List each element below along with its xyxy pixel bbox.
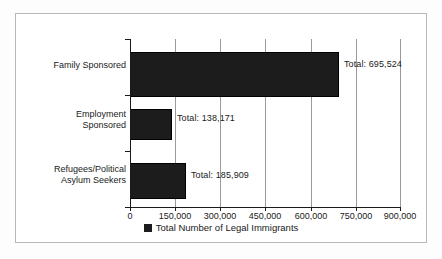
y-axis-tick-1 [125,95,130,96]
category-label-employment-sponsored: Employment Sponsored [18,109,126,131]
x-tick-label-150000: 150,000 [159,211,192,221]
category-label-family-sponsored: Family Sponsored [18,60,126,71]
legend-label: Total Number of Legal Immigrants [156,222,299,233]
y-axis-tick-2 [125,151,130,152]
x-tick-label-0: 0 [127,211,132,221]
legend-entry: Total Number of Legal Immigrants [144,222,299,233]
y-axis-line [130,39,131,207]
x-tick-label-300000: 300,000 [204,211,237,221]
bar-value-label-refugees-asylum: Total: 185,909 [191,170,249,180]
chart-page: Family Sponsored Employment Sponsored Re… [0,0,442,259]
bar-value-label-employment-sponsored: Total: 138,171 [177,113,235,123]
bar-family-sponsored [130,52,339,97]
category-label-refugees-asylum: Refugees/Political Asylum Seekers [18,164,126,186]
x-tick-label-750000: 750,000 [340,211,373,221]
legend-swatch-icon [144,224,152,232]
bar-employment-sponsored [130,109,172,140]
x-tick-label-900000: 900,000 [384,211,417,221]
category-axis-labels: Family Sponsored Employment Sponsored Re… [16,14,126,244]
y-axis-tick-0 [125,39,130,40]
chart-legend: Total Number of Legal Immigrants [0,222,442,234]
bar-refugees-asylum [130,163,186,199]
x-tick-label-450000: 450,000 [249,211,282,221]
x-tick-label-600000: 600,000 [295,211,328,221]
bar-value-label-family-sponsored: Total: 695,524 [344,59,402,69]
chart-figure-frame: Family Sponsored Employment Sponsored Re… [15,13,427,243]
